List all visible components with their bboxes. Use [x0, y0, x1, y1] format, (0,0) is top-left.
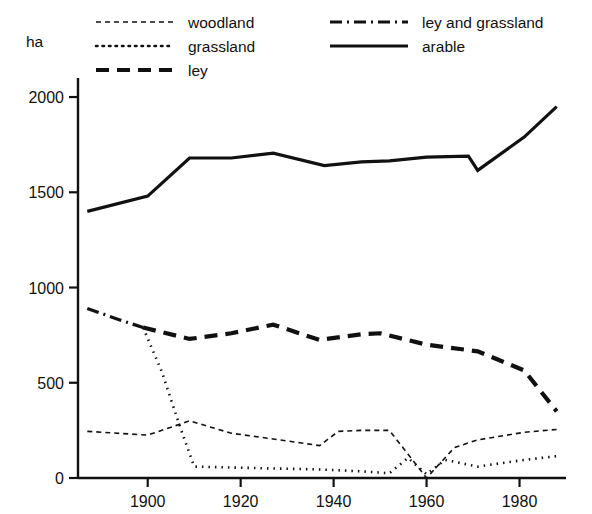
x-axis-ticks: 19001920194019601980 — [130, 478, 538, 510]
x-axis-tick-label: 1920 — [223, 493, 259, 510]
line-chart: woodlandgrasslandleyley and grasslandara… — [0, 0, 592, 514]
legend-label-arable: arable — [422, 38, 465, 55]
series-line-woodland — [87, 421, 556, 478]
x-axis-tick-label: 1980 — [502, 493, 538, 510]
y-axis-tick-label: 1500 — [28, 184, 64, 201]
legend-label-ley-and-grassland: ley and grassland — [422, 14, 544, 31]
y-axis-tick-label: 0 — [55, 470, 64, 487]
chart-container: woodlandgrasslandleyley and grasslandara… — [0, 0, 592, 514]
x-axis-tick-label: 1900 — [130, 493, 166, 510]
series-line-ley-and-grassland — [87, 308, 143, 327]
y-axis-tick-label: 1000 — [28, 280, 64, 297]
legend-label-woodland: woodland — [187, 14, 254, 31]
y-axis-ticks: 0500100015002000 — [28, 89, 78, 487]
chart-series-group — [87, 107, 556, 478]
y-axis-tick-label: 2000 — [28, 89, 64, 106]
y-axis-unit-label: ha — [26, 33, 44, 50]
series-line-grassland — [143, 328, 557, 475]
chart-axes — [78, 78, 566, 478]
legend-label-ley: ley — [188, 62, 208, 79]
x-axis-tick-label: 1940 — [316, 493, 352, 510]
series-line-arable — [87, 107, 556, 212]
y-axis-tick-label: 500 — [37, 375, 64, 392]
legend-label-grassland: grassland — [188, 38, 255, 55]
x-axis-tick-label: 1960 — [409, 493, 445, 510]
series-line-ley — [143, 325, 557, 412]
chart-legend: woodlandgrasslandleyley and grasslandara… — [96, 14, 544, 79]
